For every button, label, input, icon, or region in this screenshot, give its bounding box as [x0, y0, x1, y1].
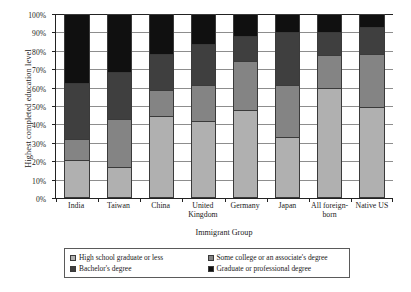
- bar-slot: [182, 14, 224, 198]
- bar-slot: [225, 14, 267, 198]
- bar-segment[interactable]: [360, 28, 383, 56]
- stacked-bar[interactable]: [275, 14, 300, 198]
- bar-segment[interactable]: [108, 15, 131, 73]
- bar-segment[interactable]: [150, 117, 173, 197]
- bar-segment[interactable]: [234, 15, 257, 37]
- stacked-bar-chart: Highest completed education level 0%10%2…: [0, 0, 411, 292]
- x-axis-tick-labels: IndiaTaiwanChinaUnited KingdomGermanyJap…: [55, 201, 393, 220]
- bar-segment[interactable]: [276, 138, 299, 197]
- x-axis-tick-label: Native US: [351, 201, 393, 220]
- legend-label: Graduate or professional degree: [217, 263, 312, 274]
- bar-segment[interactable]: [65, 84, 88, 140]
- legend-swatch-icon: [70, 266, 76, 272]
- legend-item[interactable]: Some college or an associate's degree: [208, 252, 346, 263]
- y-axis-tick-label: 30%: [32, 139, 46, 148]
- x-axis-tick-label: Germany: [224, 201, 266, 220]
- y-axis-tick-label: 40%: [32, 121, 46, 130]
- y-axis-tick-label: 10%: [32, 176, 46, 185]
- bar-segment[interactable]: [360, 15, 383, 28]
- bar-segment[interactable]: [318, 33, 341, 56]
- y-axis-tick-label: 90%: [32, 29, 46, 38]
- bars-group: [56, 14, 393, 198]
- bar-segment[interactable]: [192, 86, 215, 122]
- stacked-bar[interactable]: [149, 14, 174, 198]
- y-axis-tick-label: 70%: [32, 66, 46, 75]
- bar-segment[interactable]: [65, 161, 88, 197]
- bar-slot: [140, 14, 182, 198]
- bar-segment[interactable]: [234, 62, 257, 111]
- legend-label: Some college or an associate's degree: [217, 252, 328, 263]
- y-axis-tick-label: 0%: [36, 195, 46, 204]
- y-axis-tick-label: 20%: [32, 158, 46, 167]
- bar-slot: [267, 14, 309, 198]
- bar-segment[interactable]: [192, 15, 215, 45]
- bar-segment[interactable]: [108, 73, 131, 120]
- y-axis-tick-label: 60%: [32, 84, 46, 93]
- bar-segment[interactable]: [108, 168, 131, 197]
- bar-segment[interactable]: [65, 140, 88, 162]
- legend-item[interactable]: Graduate or professional degree: [208, 263, 346, 274]
- bar-segment[interactable]: [234, 37, 257, 62]
- bar-slot: [98, 14, 140, 198]
- legend-item[interactable]: High school graduate or less: [70, 252, 208, 263]
- bar-slot: [56, 14, 98, 198]
- bar-segment[interactable]: [318, 56, 341, 88]
- bar-segment[interactable]: [150, 15, 173, 55]
- bar-segment[interactable]: [234, 111, 257, 197]
- y-axis-tick-label: 100%: [28, 11, 46, 20]
- x-axis-tick-label: United Kingdom: [182, 201, 224, 220]
- bar-segment[interactable]: [276, 33, 299, 86]
- bar-segment[interactable]: [276, 15, 299, 33]
- y-axis-tick-label: 80%: [32, 47, 46, 56]
- legend-item[interactable]: Bachelor's degree: [70, 263, 208, 274]
- stacked-bar[interactable]: [233, 14, 258, 198]
- stacked-bar[interactable]: [191, 14, 216, 198]
- x-axis-tick-label: Taiwan: [97, 201, 139, 220]
- bar-segment[interactable]: [192, 45, 215, 86]
- x-axis-title: Immigrant Group: [55, 228, 393, 237]
- bar-segment[interactable]: [150, 55, 173, 91]
- chart-legend: High school graduate or lessSome college…: [64, 248, 350, 278]
- legend-swatch-icon: [208, 266, 214, 272]
- legend-swatch-icon: [70, 255, 76, 261]
- legend-label: Bachelor's degree: [79, 263, 131, 274]
- stacked-bar[interactable]: [64, 14, 89, 198]
- x-axis-tick-label: Japan: [266, 201, 308, 220]
- bar-segment[interactable]: [318, 15, 341, 33]
- bar-segment[interactable]: [192, 122, 215, 197]
- bar-segment[interactable]: [318, 89, 341, 197]
- y-axis-tick-label: 50%: [32, 103, 46, 112]
- bar-segment[interactable]: [65, 15, 88, 84]
- bar-segment[interactable]: [276, 86, 299, 138]
- bar-slot: [309, 14, 351, 198]
- plot-area: 0%10%20%30%40%50%60%70%80%90%100%: [55, 14, 393, 199]
- bar-segment[interactable]: [360, 108, 383, 198]
- bar-segment[interactable]: [360, 55, 383, 107]
- stacked-bar[interactable]: [317, 14, 342, 198]
- stacked-bar[interactable]: [107, 14, 132, 198]
- bar-segment[interactable]: [108, 120, 131, 168]
- bar-slot: [351, 14, 393, 198]
- x-axis-tick-label: India: [55, 201, 97, 220]
- bar-segment[interactable]: [150, 91, 173, 117]
- legend-swatch-icon: [208, 255, 214, 261]
- legend-label: High school graduate or less: [79, 252, 163, 263]
- x-axis-tick-label: All foreign- born: [309, 201, 351, 220]
- stacked-bar[interactable]: [359, 14, 384, 198]
- x-axis-tick-label: China: [140, 201, 182, 220]
